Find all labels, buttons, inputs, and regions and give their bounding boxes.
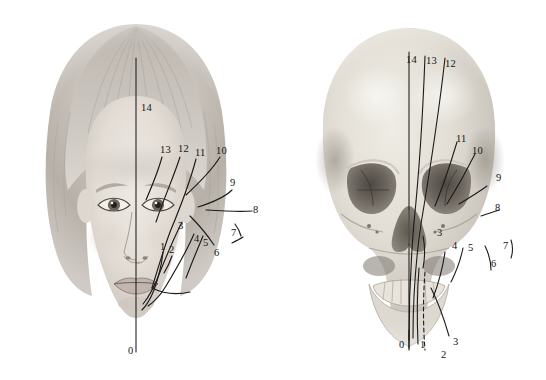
skull-label-13: 13 [426,56,437,67]
face-label-8: 8 [253,205,258,216]
skull-label-7: 7 [503,241,508,252]
skull-label-12: 12 [445,59,456,70]
face-label-4: 4 [194,234,199,245]
face-panel: 14 13 12 11 10 9 8 7 6 5 4 3 2 1 0 [0,0,273,380]
skull-label-2: 2 [441,350,446,361]
skull-label-3-upper: 3 [437,228,442,239]
face-label-9: 9 [230,178,235,189]
skull-label-1: 1 [420,340,425,351]
face-label-11: 11 [195,148,206,159]
skull-label-5: 5 [468,243,473,254]
skull-label-8: 8 [495,203,500,214]
skull-label-0: 0 [399,340,404,351]
face-label-3: 3 [178,221,183,232]
anatomical-figure: 14 13 12 11 10 9 8 7 6 5 4 3 2 1 0 [0,0,546,380]
skull-label-11: 11 [456,134,467,145]
skull-label-6: 6 [491,259,496,270]
face-label-5: 5 [203,238,208,249]
face-label-14: 14 [141,103,152,114]
skull-label-3-lower: 3 [453,337,458,348]
face-illustration [0,0,273,380]
skull-label-10: 10 [472,146,483,157]
skull-panel: 14 13 12 11 10 9 8 7 6 5 4 3 3 2 1 0 [273,0,546,380]
face-label-0: 0 [128,346,133,357]
face-label-13: 13 [160,145,171,156]
skull-label-14: 14 [406,55,417,66]
skull-label-9: 9 [496,173,501,184]
face-label-10: 10 [216,146,227,157]
face-label-12: 12 [178,144,189,155]
face-label-1: 1 [160,242,165,253]
face-label-2: 2 [169,245,174,256]
face-label-7: 7 [231,228,236,239]
skull-label-4: 4 [452,241,457,252]
face-label-6: 6 [214,248,219,259]
